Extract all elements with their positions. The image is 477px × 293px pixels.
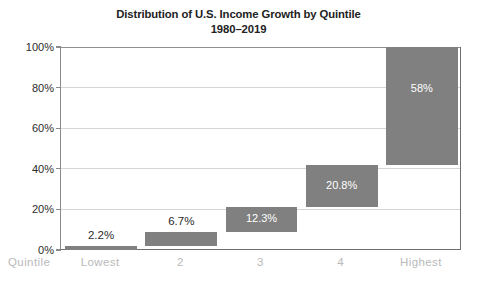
chart-subtitle: 1980–2019 bbox=[0, 22, 477, 37]
y-axis-tick bbox=[56, 249, 61, 250]
chart-title: Distribution of U.S. Income Growth by Qu… bbox=[0, 7, 477, 36]
bar-3: 12.3% bbox=[226, 207, 298, 232]
bar-data-label: 6.7% bbox=[145, 215, 217, 227]
x-axis-tick-label-4: 4 bbox=[301, 256, 381, 268]
y-axis-tick-label: 0% bbox=[2, 244, 54, 256]
x-axis-tick-label-2: 2 bbox=[140, 256, 220, 268]
chart-title-line1: Distribution of U.S. Income Growth by Qu… bbox=[116, 8, 361, 20]
y-axis-tick-label: 100% bbox=[2, 41, 54, 53]
bar-4: 20.8% bbox=[306, 165, 378, 207]
x-axis-tick-label-3: 3 bbox=[220, 256, 300, 268]
gridline bbox=[61, 168, 460, 169]
bar-data-label: 20.8% bbox=[306, 179, 378, 191]
y-axis-tick-label: 20% bbox=[2, 203, 54, 215]
x-axis-tick-label-highest: Highest bbox=[381, 256, 461, 268]
bar-data-label: 2.2% bbox=[65, 229, 137, 241]
y-axis-tick bbox=[56, 128, 61, 129]
x-axis-labels: Quintile Lowest234Highest bbox=[0, 256, 477, 276]
y-axis-tick-label: 60% bbox=[2, 122, 54, 134]
y-axis-tick bbox=[56, 87, 61, 88]
plot-area: 2.2%6.7%12.3%20.8%58% bbox=[60, 47, 461, 250]
y-axis-tick bbox=[56, 46, 61, 47]
bar-lowest bbox=[65, 246, 137, 250]
x-axis-tick-label-lowest: Lowest bbox=[60, 256, 140, 268]
bar-data-label: 12.3% bbox=[226, 212, 298, 224]
y-axis-tick bbox=[56, 209, 61, 210]
x-axis-title: Quintile bbox=[8, 256, 68, 268]
y-axis-labels: 0%20%40%60%80%100% bbox=[0, 47, 54, 250]
bar-2 bbox=[145, 232, 217, 246]
waterfall-chart-figure: Distribution of U.S. Income Growth by Qu… bbox=[0, 0, 477, 293]
y-axis-tick-label: 40% bbox=[2, 163, 54, 175]
y-axis-tick-label: 80% bbox=[2, 82, 54, 94]
bar-highest: 58% bbox=[386, 47, 458, 165]
bar-data-label: 58% bbox=[386, 82, 458, 94]
y-axis-tick bbox=[56, 168, 61, 169]
